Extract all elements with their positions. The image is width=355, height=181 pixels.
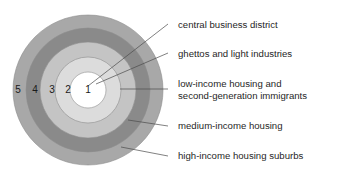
zone-label-group: central business district ghettos and li… <box>178 19 307 161</box>
ring-number-4: 4 <box>32 84 38 95</box>
zone-label-medium-income-housing: medium-income housing <box>178 120 283 131</box>
zone-label-ghettos-and-light-industries: ghettos and light industries <box>178 48 292 59</box>
zone-label-low-income-housing-line2: second-generation immigrants <box>178 90 307 101</box>
ring-number-5: 5 <box>15 84 21 95</box>
ring-number-3: 3 <box>49 84 55 95</box>
concentric-zone-diagram: 5 4 3 2 1 central business district ghet… <box>0 0 355 181</box>
ring-number-1: 1 <box>85 84 91 95</box>
zone-label-central-business-district: central business district <box>178 19 278 30</box>
ring-number-2: 2 <box>65 84 71 95</box>
zone-label-high-income-housing-suburbs: high-income housing suburbs <box>178 150 304 161</box>
zone-label-low-income-housing-line1: low-income housing and <box>178 78 281 89</box>
